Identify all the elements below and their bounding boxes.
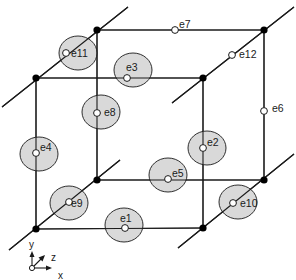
label-e2: e2: [207, 136, 219, 148]
label-e10: e10: [240, 197, 258, 209]
dof-marker-e5: [165, 176, 172, 183]
label-e9: e9: [71, 197, 83, 209]
label-e5: e5: [172, 167, 184, 179]
label-e3: e3: [126, 61, 138, 73]
dof-marker-e2: [200, 145, 207, 152]
label-e12: e12: [239, 48, 257, 60]
support-disks: [20, 36, 257, 242]
label-e8: e8: [104, 106, 116, 118]
dof-marker-e4: [33, 150, 40, 157]
hexahedral-element-diagram: e1 e2 e3 e4 e5 e6 e7 e8 e9 e10 e11 e12 y…: [0, 0, 296, 280]
dof-marker-e11: [63, 50, 70, 57]
node-back-bottom-left: [93, 176, 100, 183]
dof-marker-e8: [94, 110, 101, 117]
label-e6: e6: [272, 102, 284, 114]
label-e4: e4: [40, 141, 52, 153]
y-axis-arrowhead: [30, 251, 35, 257]
dof-marker-e10: [230, 200, 237, 207]
dof-marker-e3: [124, 75, 131, 82]
label-e7: e7: [179, 18, 191, 30]
node-back-bottom-right: [260, 176, 267, 183]
node-back-top-right: [260, 26, 267, 33]
coordinate-axes: y z x: [29, 239, 63, 280]
node-front-bottom-right: [199, 224, 206, 231]
y-axis-label: y: [29, 239, 34, 250]
axes-origin: [29, 265, 34, 270]
node-front-bottom-left: [32, 225, 39, 232]
label-e11: e11: [71, 47, 88, 59]
node-front-top-left: [32, 74, 39, 81]
z-axis-label: z: [51, 252, 56, 263]
dof-marker-e6: [261, 108, 268, 115]
x-axis-label: x: [58, 270, 63, 280]
node-front-top-right: [199, 74, 206, 81]
node-back-top-left: [93, 26, 100, 33]
label-e1: e1: [120, 212, 132, 224]
x-axis-arrowhead: [46, 266, 52, 271]
dof-marker-e1: [122, 225, 129, 232]
dof-marker-e12: [229, 52, 236, 59]
dof-marker-e7: [172, 27, 179, 34]
